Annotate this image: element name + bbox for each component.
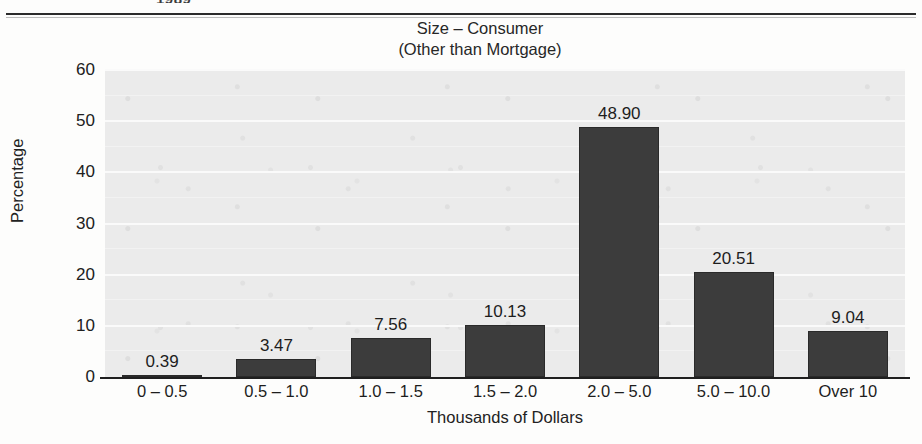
y-tick-label: 30: [76, 214, 95, 234]
y-tick-label: 20: [76, 265, 95, 285]
x-tick-label: Over 10: [818, 382, 877, 401]
bar-value-label: 20.51: [712, 249, 755, 269]
header-divider-rule: [6, 13, 916, 15]
gridline: [105, 69, 905, 71]
gridline: [105, 171, 905, 173]
bar: 48.90: [579, 127, 659, 377]
y-tick-label: 40: [76, 162, 95, 182]
x-tick-label: 2.0 – 5.0: [587, 382, 651, 401]
x-axis-line: [100, 377, 910, 379]
x-tick-label: 0.5 – 1.0: [244, 382, 308, 401]
bar-value-label: 7.56: [374, 315, 407, 335]
y-tick-label: 10: [76, 316, 95, 336]
y-axis-title: Percentage: [8, 139, 27, 223]
gridline: [105, 223, 905, 225]
x-axis-title: Thousands of Dollars: [105, 408, 905, 427]
gridline: [105, 120, 905, 122]
chart-title: Size – Consumer (Other than Mortgage): [0, 18, 922, 60]
gridline-minor: [105, 95, 905, 96]
bar: 3.47: [236, 359, 316, 377]
x-tick-label: 0 – 0.5: [137, 382, 187, 401]
gridline-minor: [105, 146, 905, 147]
gridline: [105, 274, 905, 276]
gridline-minor: [105, 299, 905, 300]
cropped-running-head: 1989: [156, 0, 191, 3]
bar: 10.13: [465, 325, 545, 377]
bar-value-label: 48.90: [598, 104, 641, 124]
chart-title-line2: (Other than Mortgage): [38, 39, 922, 60]
x-tick-label: 5.0 – 10.0: [697, 382, 770, 401]
bar-value-label: 0.39: [146, 352, 179, 372]
bar-value-label: 10.13: [484, 302, 527, 322]
gridline-minor: [105, 248, 905, 249]
y-tick-label: 60: [76, 60, 95, 80]
plot-area-wrapper: 0102030405060 0.393.477.5610.1348.9020.5…: [105, 70, 905, 377]
gridline-minor: [105, 197, 905, 198]
bar: 20.51: [694, 272, 774, 377]
x-tick-label: 1.0 – 1.5: [359, 382, 423, 401]
chart-page: 1989 Size – Consumer (Other than Mortgag…: [0, 0, 922, 444]
bar: 7.56: [351, 338, 431, 377]
y-tick-label: 0: [86, 367, 95, 387]
bar: 9.04: [808, 331, 888, 377]
y-tick-label: 50: [76, 111, 95, 131]
bar-value-label: 3.47: [260, 336, 293, 356]
bar-value-label: 9.04: [831, 308, 864, 328]
chart-title-line1: Size – Consumer: [417, 19, 544, 37]
x-tick-label: 1.5 – 2.0: [473, 382, 537, 401]
